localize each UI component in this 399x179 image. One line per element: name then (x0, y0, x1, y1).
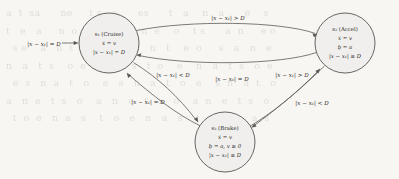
accel-circle[interactable] (315, 13, 375, 73)
transition-accel-to-brake-label: |x − x₁| < D (295, 100, 329, 107)
transition-accel-to-cruise-label: |x − x₁| = D (215, 76, 249, 83)
brake-title: s₃ (Brake) (211, 125, 238, 131)
state-diagram-svg: s₁ (Cruise) ẋ = v |x − x₁| = D s₂ (Accel… (0, 0, 399, 179)
edge-cruise-accel (137, 23, 318, 37)
state-node-accel[interactable]: s₂ (Accel) ẋ = v ḇ = a |x − x₁| ≥ D (315, 13, 375, 73)
brake-invariant: |x − x₁| ≤ D (209, 152, 242, 159)
brake-flow-1: ẋ = v (218, 134, 232, 140)
transition-brake-to-accel-label: |x − x₁| > D (275, 72, 309, 79)
transition-cruise-to-accel-label: |x − x₁| > D (211, 15, 245, 22)
transition-cruise-to-brake-label: |x − x₁| < D (156, 72, 190, 79)
cruise-invariant: |x − x₁| = D (93, 49, 126, 56)
state-node-cruise[interactable]: s₁ (Cruise) ẋ = v |x − x₁| = D (79, 13, 139, 73)
transition-brake-to-cruise-label: |x − x₁| = D (131, 99, 165, 106)
cruise-title: s₁ (Cruise) (95, 31, 124, 37)
accel-invariant: |x − x₁| ≥ D (329, 53, 362, 60)
accel-title: s₂ (Accel) (332, 26, 358, 32)
brake-flow-2: ḇ = a, v ≥ 0 (209, 143, 242, 149)
edge-accel-cruise (136, 53, 316, 63)
figure-canvas: a t sa ne t s a es t a n a e s t e a n o… (0, 0, 399, 179)
initial-arrow (62, 41, 79, 45)
state-node-brake[interactable]: s₃ (Brake) ẋ = v ḇ = a, v ≥ 0 |x − x₁| ≤… (195, 112, 255, 172)
brake-circle[interactable] (195, 112, 255, 172)
initial-arrow-label: |x − x₁| = D (27, 41, 61, 48)
accel-flow-2: ḇ = a (338, 44, 353, 50)
cruise-flow-1: ẋ = v (102, 40, 116, 46)
accel-flow-1: ẋ = v (338, 35, 352, 41)
